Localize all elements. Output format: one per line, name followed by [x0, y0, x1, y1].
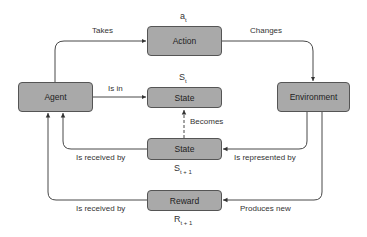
agent-label: Agent [44, 92, 66, 102]
agent-node: Agent [18, 82, 93, 112]
state-t1-symbol: St + 1 [174, 163, 192, 175]
is-in-label: Is in [108, 84, 123, 93]
action-node: Action [147, 26, 222, 56]
state-t1-label: State [175, 144, 195, 154]
reward-node: Reward [147, 190, 222, 211]
action-label: Action [173, 36, 197, 46]
produces-new-label: Produces new [240, 204, 291, 213]
reward-symbol: Rt + 1 [174, 214, 192, 226]
state-t-label: State [175, 93, 195, 103]
state-t1-node: State [147, 138, 222, 160]
is-represented-by-label: Is represented by [234, 153, 296, 162]
state-received-by-label: Is received by [76, 153, 125, 162]
state-t-node: State [147, 87, 222, 108]
becomes-label: Becomes [190, 117, 223, 126]
changes-label: Changes [250, 26, 282, 35]
environment-node: Environment [277, 82, 350, 112]
environment-label: Environment [290, 92, 338, 102]
takes-label: Takes [92, 26, 113, 35]
action-symbol: at [180, 11, 187, 23]
reward-label: Reward [170, 196, 199, 206]
state-t-symbol: St [179, 72, 187, 84]
reward-received-by-label: Is received by [76, 204, 125, 213]
